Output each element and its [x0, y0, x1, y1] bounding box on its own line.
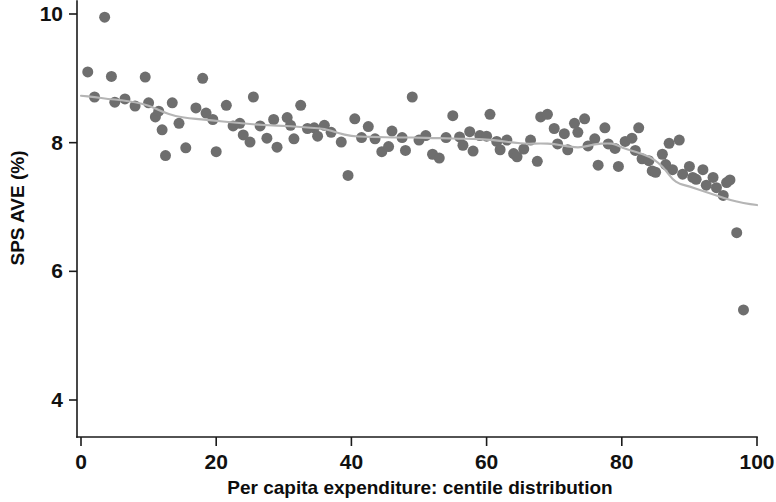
data-point — [312, 131, 323, 142]
data-point — [140, 72, 151, 83]
data-point — [268, 114, 279, 125]
data-point — [160, 150, 171, 161]
y-tick-label: 6 — [51, 259, 63, 282]
y-tick-label: 8 — [51, 131, 63, 154]
data-point — [464, 126, 475, 137]
data-point — [691, 174, 702, 185]
data-point — [708, 172, 719, 183]
y-tick-label: 4 — [51, 388, 63, 411]
data-point — [626, 133, 637, 144]
data-point — [248, 91, 259, 102]
data-point — [484, 109, 495, 120]
data-point — [684, 161, 695, 172]
data-point — [197, 73, 208, 84]
x-tick-label: 40 — [340, 450, 363, 473]
y-tick-label: 10 — [40, 2, 63, 25]
data-point — [82, 66, 93, 77]
data-point — [261, 133, 272, 144]
data-point — [495, 144, 506, 155]
data-point — [336, 137, 347, 148]
data-point — [542, 109, 553, 120]
data-point — [157, 124, 168, 135]
data-point — [593, 160, 604, 171]
data-point — [386, 126, 397, 137]
data-point — [190, 102, 201, 113]
x-axis-title: Per capita expenditure: centile distribu… — [227, 477, 612, 498]
data-point — [167, 97, 178, 108]
data-point — [589, 133, 600, 144]
data-point — [106, 71, 117, 82]
data-point — [468, 146, 479, 157]
data-point — [349, 113, 360, 124]
data-point — [447, 110, 458, 121]
x-tick-label: 0 — [75, 450, 87, 473]
data-point — [657, 149, 668, 160]
data-point — [400, 145, 411, 156]
data-point — [559, 128, 570, 139]
data-point — [99, 12, 110, 23]
data-point — [572, 127, 583, 138]
data-point — [501, 135, 512, 146]
data-point — [383, 141, 394, 152]
data-point — [272, 142, 283, 153]
data-point — [613, 161, 624, 172]
data-point — [518, 144, 529, 155]
data-point — [288, 133, 299, 144]
data-point — [674, 135, 685, 146]
data-point — [174, 118, 185, 129]
data-point — [731, 227, 742, 238]
x-tick-label: 80 — [610, 450, 633, 473]
data-point — [119, 93, 130, 104]
data-point — [664, 138, 675, 149]
data-point — [633, 122, 644, 133]
data-point — [180, 142, 191, 153]
data-point — [420, 130, 431, 141]
data-point — [434, 153, 445, 164]
data-point — [211, 146, 222, 157]
data-point — [599, 122, 610, 133]
data-point — [724, 174, 735, 185]
data-point — [532, 156, 543, 167]
x-tick-label: 100 — [739, 450, 774, 473]
data-point — [738, 304, 749, 315]
data-point — [343, 170, 354, 181]
data-point — [221, 100, 232, 111]
data-point — [579, 113, 590, 124]
scatter-plot-svg: 46810 020406080100 Per capita expenditur… — [0, 0, 776, 502]
data-point — [457, 140, 468, 151]
data-point — [697, 164, 708, 175]
chart-figure: 46810 020406080100 Per capita expenditur… — [0, 0, 776, 502]
data-point — [370, 133, 381, 144]
data-point — [295, 100, 306, 111]
data-point — [245, 137, 256, 148]
x-tick-label: 60 — [475, 450, 498, 473]
x-tick-label: 20 — [205, 450, 228, 473]
data-point — [363, 121, 374, 132]
y-axis-title: SPS AVE (%) — [7, 150, 28, 265]
data-point — [650, 167, 661, 178]
data-point — [407, 91, 418, 102]
data-point — [549, 123, 560, 134]
